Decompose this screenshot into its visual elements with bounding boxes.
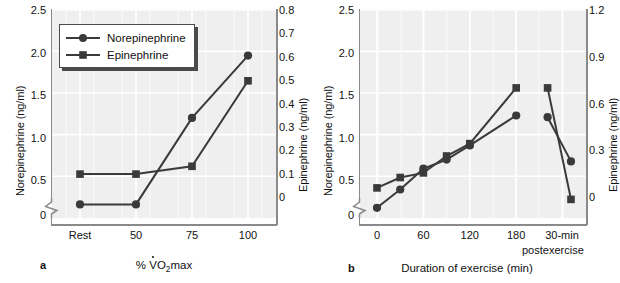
panel-b-ytick-0: 0 <box>330 209 354 221</box>
panel-a-ytick-0_5: 0.5 <box>22 174 46 186</box>
panel-b-xtick-30-min: 30-min <box>532 229 592 241</box>
panel-b-xtick-120: 120 <box>450 229 490 241</box>
panel-a-ytick-right-0_2: 0.2 <box>279 144 305 156</box>
panel-a-y-axis-left-line <box>51 9 53 201</box>
panel-b-ytick-1_5: 1.5 <box>330 89 354 101</box>
panel-a-ytick-1_5: 1.5 <box>22 89 46 101</box>
panel-b-plot-area <box>360 9 586 218</box>
panel-b-x-axis-line <box>359 224 587 226</box>
panel-a-x-axis-title-prefix: % <box>136 259 149 271</box>
panel-a-series-norepinephrine-line <box>80 56 248 205</box>
panel-a-ytick-0: 0 <box>22 209 46 221</box>
figure-catecholamine-response: Norepinephrine (ng/ml) Epinephrine (ng/m… <box>0 0 620 283</box>
panel-b-axis-break-icon <box>352 198 368 218</box>
legend-label-epinephrine: Epinephrine <box>107 49 168 61</box>
panel-a-y-axis-right-line <box>276 9 278 225</box>
panel-a-axis-break-icon <box>44 198 60 218</box>
panel-a-xtick-75: 75 <box>172 229 212 241</box>
legend-label-norepinephrine: Norepinephrine <box>107 32 186 44</box>
panel-b-ytick-2_5: 2.5 <box>330 4 354 16</box>
legend-entry-norepinephrine: Norepinephrine <box>66 29 186 46</box>
panel-a-letter: a <box>40 259 46 271</box>
panel-a-ytick-right-0_3: 0.3 <box>279 121 305 133</box>
panel-a-legend: Norepinephrine Epinephrine <box>59 24 195 68</box>
legend-marker-circle-icon <box>66 32 100 44</box>
panel-b-y-axis-left-line <box>359 9 361 201</box>
panel-a-series-norepinephrine-markers <box>76 52 252 209</box>
panel-b-xtick-0: 0 <box>357 229 397 241</box>
panel-a-xtick-50: 50 <box>116 229 156 241</box>
legend-entry-epinephrine: Epinephrine <box>66 46 186 63</box>
panel-b-plot-svg <box>360 9 586 218</box>
panel-b: Norepinephrine (ng/ml) Epinephrine (ng/m… <box>310 0 620 283</box>
panel-a-x-axis-title-vdot: V <box>149 259 157 271</box>
panel-b-xtick-180: 180 <box>496 229 536 241</box>
panel-b-ytick-right-0: 0 <box>589 191 615 203</box>
panel-b-ytick-right-1_2: 1.2 <box>589 4 615 16</box>
panel-b-x-axis-title: Duration of exercise (min) <box>372 262 562 274</box>
panel-b-ytick-2_0: 2.0 <box>330 47 354 59</box>
panel-a-ytick-1_0: 1.0 <box>22 132 46 144</box>
panel-a-x-axis-title: % VO2max <box>94 259 234 274</box>
panel-a-ytick-right-0_5: 0.5 <box>279 74 305 86</box>
panel-a-x-axis-line <box>51 224 277 226</box>
panel-a: Norepinephrine (ng/ml) Epinephrine (ng/m… <box>0 0 310 283</box>
panel-a-ytick-right-0_4: 0.4 <box>279 98 305 110</box>
panel-a-ytick-2_0: 2.0 <box>22 47 46 59</box>
panel-a-xtick-rest: Rest <box>60 229 100 241</box>
panel-a-x-axis-title-o: O <box>157 259 166 271</box>
panel-b-ytick-right-0_6: 0.6 <box>589 98 615 110</box>
panel-b-letter: b <box>348 262 355 274</box>
panel-a-x-axis-title-suffix: max <box>170 259 192 271</box>
panel-a-xtick-100: 100 <box>228 229 268 241</box>
panel-b-xtick-postexercise-sublabel: postexercise <box>522 244 584 256</box>
panel-a-ytick-right-0: 0 <box>279 191 305 203</box>
panel-b-gridlines-horizontal <box>360 10 586 176</box>
panel-b-ytick-right-0_3: 0.3 <box>589 144 615 156</box>
panel-a-ytick-right-0_7: 0.7 <box>279 27 305 39</box>
panel-b-ytick-0_5: 0.5 <box>330 174 354 186</box>
panel-b-series-epinephrine-postexercise-line <box>548 88 571 199</box>
panel-a-ytick-right-0_8: 0.8 <box>279 4 305 16</box>
panel-a-ytick-2_5: 2.5 <box>22 4 46 16</box>
panel-b-series-norepinephrine-postexercise-line <box>548 117 571 161</box>
panel-b-ytick-1_0: 1.0 <box>330 132 354 144</box>
panel-b-ytick-right-0_9: 0.9 <box>589 51 615 63</box>
legend-marker-square-icon <box>66 49 100 61</box>
panel-b-y-axis-right-line <box>586 9 588 225</box>
panel-a-ytick-right-0_1: 0.1 <box>279 168 305 180</box>
panel-b-xtick-60: 60 <box>403 229 443 241</box>
panel-a-ytick-right-0_6: 0.6 <box>279 51 305 63</box>
